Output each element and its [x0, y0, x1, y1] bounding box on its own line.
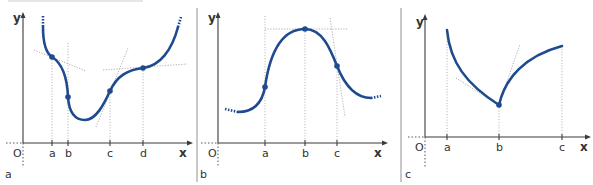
origin-label: O [415, 141, 424, 154]
y-axis-label: y [208, 11, 216, 25]
curve-continuation-right [371, 96, 381, 98]
panel-label: c [405, 168, 411, 181]
function-curve [238, 29, 371, 112]
tick-label-c: c [107, 147, 113, 160]
panel-label: a [5, 168, 12, 181]
tick-label-a: a [262, 147, 269, 160]
point-d [140, 65, 146, 71]
point-b [496, 102, 502, 108]
tick-label-a: a [49, 147, 56, 160]
tick-label-a: a [444, 141, 451, 154]
y-axis-label: y [416, 15, 424, 29]
x-axis-arrow-icon [187, 141, 193, 146]
curve-continuation-left [225, 109, 238, 112]
point-a [49, 54, 55, 60]
function-curve-right [499, 46, 562, 105]
function-curve [43, 27, 178, 120]
panel-c: y x O c a b c [405, 14, 591, 181]
tick-label-c: c [334, 147, 340, 160]
y-axis-label: y [13, 11, 21, 25]
tick-label-b: b [496, 141, 503, 154]
x-axis-label: x [580, 140, 588, 154]
y-axis-arrow-icon [216, 12, 221, 18]
point-c [107, 88, 113, 94]
point-b [65, 94, 71, 100]
panel-a: y x O a a b c d [5, 11, 193, 181]
function-graphs-figure: y x O a a b c d [0, 0, 593, 185]
x-axis-arrow-icon [382, 141, 388, 146]
tangent-at-a [34, 50, 86, 71]
cut-off-header [8, 0, 143, 2]
point-a [262, 84, 268, 90]
curve-continuation-right [178, 17, 181, 27]
tick-label-d: d [140, 147, 147, 160]
panel-label: b [200, 168, 207, 181]
x-axis-label: x [179, 146, 187, 160]
panel-b: y x O b a b c [200, 11, 388, 181]
point-c [334, 63, 340, 69]
tick-label-b: b [302, 147, 309, 160]
y-axis-arrow-icon [21, 12, 26, 18]
origin-label: O [208, 147, 217, 160]
function-curve-left [447, 30, 499, 105]
origin-label: O [13, 147, 22, 160]
tick-label-c: c [559, 141, 565, 154]
point-b [302, 26, 308, 32]
tick-label-b: b [65, 147, 72, 160]
x-axis-label: x [374, 146, 382, 160]
x-axis-arrow-icon [585, 135, 591, 140]
